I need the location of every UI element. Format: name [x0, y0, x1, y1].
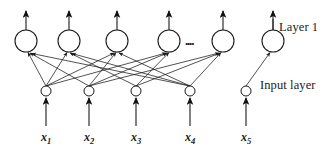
- input-node-2: [84, 86, 94, 96]
- input-layer-annotation-label: Input layer: [260, 79, 316, 92]
- input-variable-subscript-2: 2: [90, 136, 94, 146]
- input-layer-nodes: [41, 86, 251, 96]
- input-variable-base-3: x: [131, 130, 137, 144]
- input-node-3: [131, 86, 141, 96]
- layer1-ellipsis: ....: [185, 34, 193, 47]
- input-feed-arrows: [46, 98, 246, 126]
- layer1-annotation-label: Layer 1: [279, 21, 318, 34]
- layer1-node-3: [106, 30, 128, 52]
- input-node-5: [241, 86, 251, 96]
- input-node-4: [185, 86, 195, 96]
- input-variable-subscript-5: 5: [247, 136, 251, 146]
- input-variable-base-1: x: [41, 130, 47, 144]
- input-variable-label-2: x2: [79, 131, 99, 143]
- input-node-1: [41, 86, 51, 96]
- layer1-output-arrows: [26, 11, 273, 30]
- layer1-node-1: [15, 30, 37, 52]
- input-variable-label-3: x3: [126, 131, 146, 143]
- input-variable-base-5: x: [241, 130, 247, 144]
- input-variable-label-4: x4: [180, 131, 200, 143]
- input-variable-label-5: x5: [236, 131, 256, 143]
- input-variable-subscript-3: 3: [137, 136, 141, 146]
- edge-in1-l1: [28, 53, 46, 87]
- input-variable-subscript-1: 1: [47, 136, 51, 146]
- layer1-nodes: [15, 30, 284, 52]
- neural-network-diagram: .... Layer 1 Input layer x1 x2 x3 x4 x5: [0, 0, 329, 148]
- layer1-node-5: [212, 30, 234, 52]
- input-variable-base-4: x: [185, 130, 191, 144]
- layer1-node-4: [158, 30, 180, 52]
- input-variable-subscript-4: 4: [191, 136, 195, 146]
- layer1-node-2: [58, 30, 80, 52]
- input-variable-label-1: x1: [36, 131, 56, 143]
- edge-in4-l5: [190, 53, 221, 87]
- connection-edges: [28, 53, 270, 87]
- input-variable-base-2: x: [84, 130, 90, 144]
